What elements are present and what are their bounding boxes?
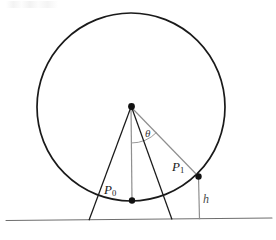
label-p1-subscript: 1 [180, 165, 184, 175]
point-p1-dot [195, 173, 201, 179]
circle-center-dot [128, 103, 135, 110]
height-drop-line [199, 177, 200, 220]
figure-canvas [0, 0, 276, 240]
ground-line [6, 218, 272, 221]
label-p0-subscript: 0 [112, 188, 116, 198]
triangle-leg-right [132, 107, 173, 220]
label-p1: P1 [172, 160, 184, 174]
radius-to-p0 [131, 107, 132, 201]
label-angle-theta: θ [145, 128, 150, 139]
label-height-h: h [203, 193, 209, 205]
point-p0-dot [129, 197, 135, 203]
label-p0: P0 [104, 183, 116, 197]
triangle-leg-left [89, 107, 131, 220]
geometry-figure: P0 P1 h θ [0, 0, 276, 240]
